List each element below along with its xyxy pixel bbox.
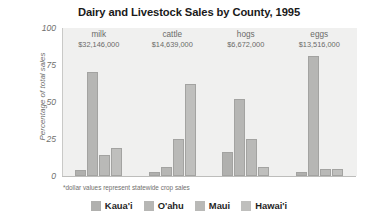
legend-label: Hawai'i [255,200,287,211]
bar-eggs-oahu[interactable] [308,56,319,176]
chart-legend: Kaua'iO'ahuMauiHawai'i [0,200,378,211]
bar-cattle-kauai[interactable] [149,172,160,176]
y-tick-0: 0 [18,172,56,181]
legend-swatch-icon [241,201,251,211]
y-axis: Percentage of total sales 100 75 50 25 0 [18,20,60,184]
legend-swatch-icon [144,201,154,211]
y-tick-50: 50 [18,98,56,107]
legend-label: Maui [209,200,230,211]
bar-cattle-maui[interactable] [173,139,184,176]
bar-hogs-maui[interactable] [246,139,257,176]
x-axis-baseline [62,176,356,177]
bar-milk-kauai[interactable] [75,170,86,176]
legend-swatch-icon [195,201,205,211]
bar-hogs-hawaii[interactable] [258,167,269,176]
bar-hogs-oahu[interactable] [234,99,245,176]
bar-group-bars [283,28,357,176]
bar-hogs-kauai[interactable] [222,152,233,176]
chart-footnote: *dollar values represent statewide crop … [63,184,190,191]
bar-eggs-hawaii[interactable] [332,169,343,176]
bar-eggs-maui[interactable] [320,169,331,176]
y-tick-100: 100 [18,24,56,33]
legend-item-maui[interactable]: Maui [195,200,230,211]
bar-group-bars [62,28,136,176]
bar-eggs-kauai[interactable] [296,172,307,176]
bar-cattle-hawaii[interactable] [185,84,196,176]
bar-cattle-oahu[interactable] [161,167,172,176]
bar-group-eggs: eggs$13,516,000 [283,0,357,176]
bar-group-hogs: hogs$6,672,000 [209,0,283,176]
legend-label: O'ahu [158,200,184,211]
legend-item-hawaii[interactable]: Hawai'i [241,200,287,211]
legend-item-kauai[interactable]: Kaua'i [91,200,133,211]
y-tick-75: 75 [18,61,56,70]
bar-milk-hawaii[interactable] [111,148,122,176]
bar-group-bars [136,28,210,176]
bar-group-milk: milk$32,146,000 [62,0,136,176]
bar-group-bars [209,28,283,176]
bar-group-cattle: cattle$14,639,000 [136,0,210,176]
legend-item-oahu[interactable]: O'ahu [144,200,184,211]
chart-container: Dairy and Livestock Sales by County, 199… [0,0,378,224]
y-tick-25: 25 [18,135,56,144]
bar-milk-maui[interactable] [99,155,110,176]
legend-label: Kaua'i [105,200,133,211]
bar-milk-oahu[interactable] [87,72,98,176]
legend-swatch-icon [91,201,101,211]
